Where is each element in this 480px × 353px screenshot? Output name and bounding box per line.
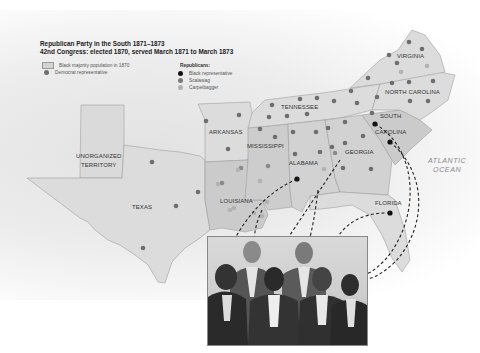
portrait-engraving bbox=[207, 236, 368, 346]
legend-carpetbagger: Carpetbagger bbox=[176, 85, 218, 90]
label-unorganized: UNORGANIZED bbox=[76, 153, 121, 159]
democrat-dot-icon bbox=[44, 70, 49, 75]
map-legend: Republican Party in the South 1871–1873 … bbox=[40, 40, 233, 56]
label-alabama: ALABAMA bbox=[289, 160, 318, 166]
label-tennessee: TENNESSEE bbox=[281, 104, 318, 110]
label-mississippi: MISSISSIPPI bbox=[247, 143, 284, 149]
legend-black-majority: Black majority population in 1870 bbox=[42, 62, 129, 69]
legend-democrat: Democrat representative bbox=[42, 70, 108, 75]
label-virginia: VIRGINIA bbox=[397, 53, 424, 59]
label-texas: TEXAS bbox=[132, 204, 152, 210]
label-territory: TERRITORY bbox=[81, 162, 116, 168]
label-south-carolina-1: SOUTH bbox=[380, 113, 402, 119]
label-arkansas: ARKANSAS bbox=[209, 129, 242, 135]
carpetbagger-dot-icon bbox=[178, 85, 183, 90]
portrait-figures bbox=[208, 237, 367, 345]
label-florida: FLORIDA bbox=[375, 200, 402, 206]
label-north-carolina: NORTH CAROLINA bbox=[385, 89, 440, 95]
black-majority-swatch bbox=[42, 62, 54, 69]
label-south-carolina-2: CAROLINA bbox=[375, 129, 406, 135]
label-atlantic-ocean: ATLANTIC OCEAN bbox=[428, 156, 466, 174]
legend-scalawag: Scalawag bbox=[176, 78, 210, 83]
legend-black-rep: Black representative bbox=[176, 71, 232, 76]
legend-subtitle: 42nd Congress: elected 1870, served Marc… bbox=[40, 48, 233, 56]
map-figure: Republican Party in the South 1871–1873 … bbox=[0, 0, 480, 353]
figure-front-4 bbox=[330, 274, 367, 345]
label-louisiana: LOUISIANA bbox=[220, 198, 253, 204]
label-georgia: GEORGIA bbox=[345, 149, 374, 155]
legend-title: Republican Party in the South 1871–1873 bbox=[40, 40, 233, 48]
legend-republicans-header: Republicans: bbox=[180, 63, 210, 68]
scalawag-dot-icon bbox=[178, 78, 183, 83]
black-rep-dot-icon bbox=[178, 71, 183, 76]
